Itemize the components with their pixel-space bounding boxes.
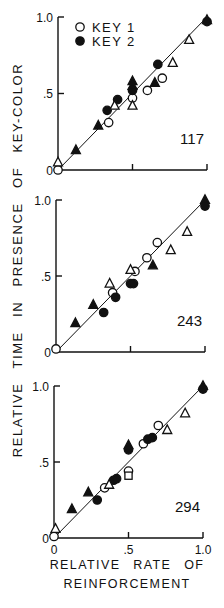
- open-square-marker: [125, 472, 132, 479]
- open-circle-marker: [50, 532, 58, 540]
- panel-294: 0.51.00.51.0294: [32, 380, 211, 558]
- x-axis-title: RELATIVE RATE OF REINFORCEMENT: [30, 556, 224, 594]
- open-circle-marker: [104, 118, 112, 126]
- y-tick-label: 0: [42, 532, 49, 546]
- open-circle-marker: [143, 86, 151, 94]
- panel-117: 0.51.0117KEY 1KEY 2: [36, 11, 211, 178]
- open-circle-marker: [143, 254, 151, 262]
- open-triangle-marker: [128, 101, 137, 110]
- panel-243: 0.51.0243: [34, 194, 209, 360]
- y-tick-label: 1.0: [34, 194, 51, 208]
- open-circle-marker: [52, 345, 60, 353]
- y-tick-label: 1.0: [36, 11, 53, 25]
- figure: RELATIVE TIME IN PRESENCE OF KEY-COLOR 0…: [0, 0, 224, 608]
- filled-triangle-marker: [124, 440, 133, 449]
- legend-label: KEY 2: [92, 34, 136, 49]
- y-tick-label: 1.0: [32, 380, 49, 394]
- open-triangle-marker: [166, 245, 175, 254]
- filled-triangle-marker: [67, 504, 76, 513]
- filled-circle-marker: [148, 433, 156, 441]
- filled-triangle-marker: [128, 76, 137, 85]
- filled-triangle-marker: [89, 300, 98, 309]
- filled-circle-marker: [76, 37, 84, 45]
- filled-circle-marker: [99, 308, 107, 316]
- panel-label: 243: [177, 312, 202, 329]
- filled-circle-marker: [129, 279, 137, 287]
- open-triangle-marker: [181, 408, 190, 417]
- open-triangle-marker: [183, 227, 192, 236]
- open-triangle-marker: [168, 58, 177, 67]
- open-triangle-marker: [105, 278, 114, 287]
- x-axis-title-line1: RELATIVE RATE OF: [30, 556, 224, 575]
- filled-circle-marker: [154, 60, 162, 68]
- panel-label: 294: [175, 498, 200, 515]
- x-tick-label: 1.0: [195, 543, 212, 557]
- open-triangle-marker: [54, 157, 63, 166]
- y-tick-label: .5: [43, 87, 53, 101]
- x-tick-label: .5: [123, 543, 133, 557]
- y-tick-label: 0: [44, 346, 51, 360]
- panel-label: 117: [180, 130, 204, 147]
- filled-circle-marker: [111, 293, 119, 301]
- open-circle-marker: [153, 238, 161, 246]
- open-circle-marker: [54, 166, 62, 174]
- open-circle-marker: [158, 74, 166, 82]
- y-tick-label: 0: [46, 164, 53, 178]
- filled-triangle-marker: [199, 381, 208, 390]
- open-circle-marker: [154, 421, 162, 429]
- filled-circle-marker: [103, 106, 111, 114]
- x-axis-title-line2: REINFORCEMENT: [30, 575, 224, 594]
- filled-triangle-marker: [71, 145, 80, 154]
- y-tick-label: .5: [41, 270, 51, 284]
- reference-line: [54, 386, 203, 538]
- x-tick-label: 0: [51, 543, 58, 557]
- filled-circle-marker: [93, 496, 101, 504]
- reference-line: [56, 200, 205, 352]
- legend-label: KEY 1: [92, 20, 136, 35]
- filled-triangle-marker: [84, 487, 93, 496]
- open-triangle-marker: [51, 524, 60, 533]
- filled-triangle-marker: [71, 318, 80, 327]
- filled-triangle-marker: [201, 195, 210, 204]
- filled-circle-marker: [112, 475, 120, 483]
- open-circle-marker: [76, 23, 84, 31]
- scatter-panels: 0.51.0117KEY 1KEY 20.51.02430.51.00.51.0…: [0, 0, 224, 608]
- y-tick-label: .5: [39, 456, 49, 470]
